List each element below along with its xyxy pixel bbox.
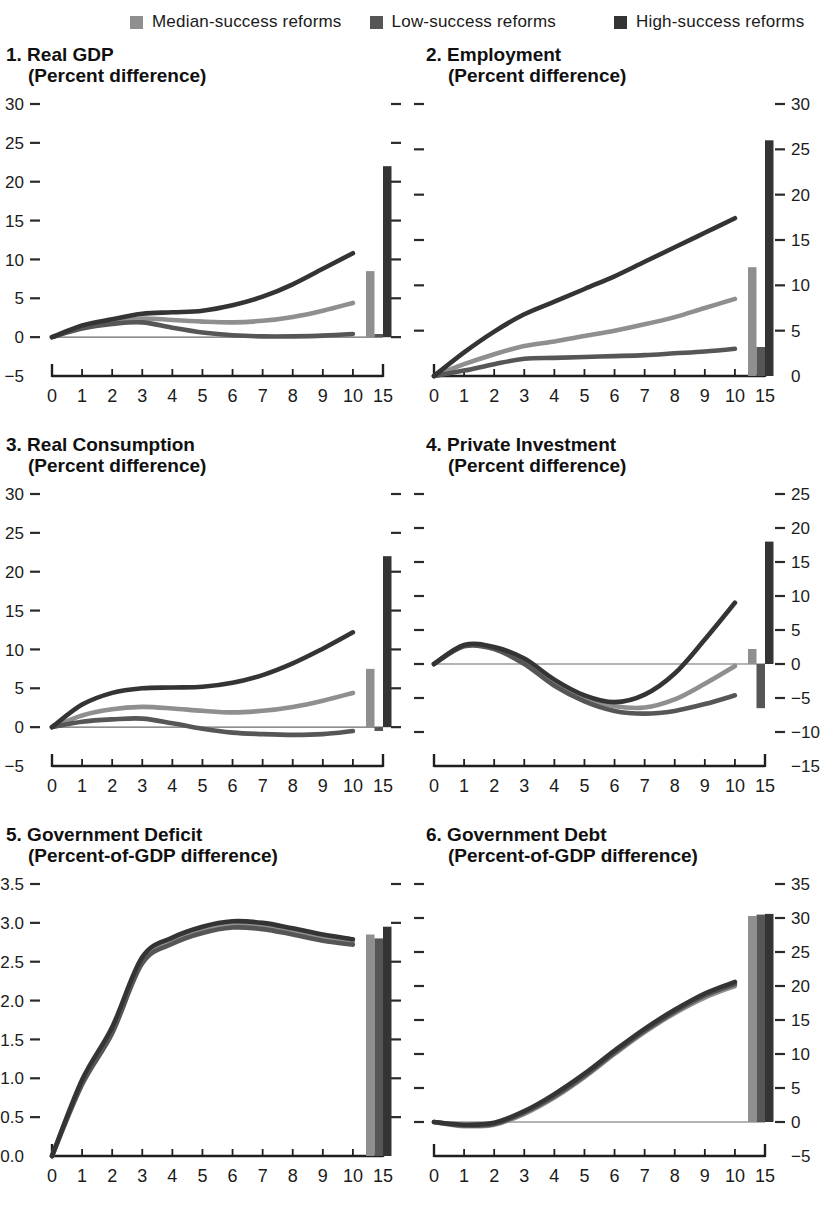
x-tick-label: 5 — [197, 776, 207, 796]
y-tick-label: 10 — [791, 276, 810, 295]
x-tick-label: 9 — [318, 1166, 328, 1186]
y-tick-label: 15 — [5, 602, 24, 621]
y-tick-label: 1.5 — [0, 1031, 24, 1050]
long-run-bars — [366, 166, 392, 337]
panel-title-text: 4. Private Investment — [426, 434, 820, 455]
y-tick-label: 10 — [5, 641, 24, 660]
x-tick-label: 0 — [47, 776, 57, 796]
line-High-success reforms — [434, 982, 735, 1125]
x-tick-label: 0 — [429, 1166, 439, 1186]
x-tick-label: 6 — [610, 1166, 620, 1186]
x-tick-label: 15 — [373, 776, 393, 796]
x-tick-label: 15 — [373, 1166, 393, 1186]
x-tick-label: 7 — [640, 776, 650, 796]
panel-title: 2. Employment (Percent difference) — [410, 44, 820, 86]
y-tick-label: 25 — [791, 485, 810, 504]
bar-Median-success reforms — [748, 649, 757, 664]
panel-subtitle-text: (Percent-of-GDP difference) — [426, 845, 820, 866]
legend-label: Median-success reforms — [152, 12, 342, 32]
y-tick-label: −5 — [791, 689, 810, 708]
x-axis: 01234567891015 — [429, 754, 775, 796]
x-tick-label: 6 — [610, 386, 620, 406]
y-tick-label: 30 — [791, 95, 810, 114]
x-tick-label: 2 — [107, 386, 117, 406]
bar-Low-success reforms — [375, 938, 384, 1156]
long-run-bars — [748, 542, 774, 709]
low-swatch-icon — [370, 16, 383, 29]
y-tick-label: 0 — [791, 367, 800, 386]
y-tick-label: 0 — [791, 1113, 800, 1132]
y-tick-label: 30 — [5, 95, 24, 114]
chart-private-investment: −15−10−5051015202501234567891015 — [410, 480, 820, 810]
panel-government-debt: 6. Government Debt (Percent-of-GDP diffe… — [410, 824, 820, 1212]
bar-High-success reforms — [765, 140, 774, 376]
y-tick-label: 30 — [5, 485, 24, 504]
line-Median-success reforms — [52, 924, 353, 1156]
line-Median-success reforms — [434, 986, 735, 1126]
x-tick-label: 15 — [755, 386, 775, 406]
bar-Median-success reforms — [748, 916, 757, 1122]
y-tick-label: 25 — [5, 524, 24, 543]
panel-employment: 2. Employment (Percent difference) 05101… — [410, 44, 820, 432]
x-tick-label: 1 — [77, 776, 87, 796]
x-tick-label: 7 — [640, 386, 650, 406]
x-tick-label: 6 — [228, 776, 238, 796]
x-tick-label: 8 — [288, 386, 298, 406]
x-tick-label: 15 — [373, 386, 393, 406]
x-tick-label: 4 — [549, 776, 559, 796]
x-tick-label: 8 — [670, 776, 680, 796]
bar-High-success reforms — [383, 556, 392, 727]
legend-item-low: Low-success reforms — [370, 12, 556, 32]
x-tick-label: 3 — [137, 386, 147, 406]
y-tick-label: 35 — [791, 875, 810, 894]
legend-item-high: High-success reforms — [614, 12, 804, 32]
y-tick-label: 3.5 — [0, 875, 24, 894]
x-tick-label: 10 — [343, 386, 363, 406]
panel-government-deficit: 5. Government Deficit (Percent-of-GDP di… — [0, 824, 410, 1212]
x-tick-label: 1 — [459, 386, 469, 406]
panel-grid: 1. Real GDP (Percent difference) −505101… — [0, 44, 820, 1212]
y-tick-label: 20 — [791, 186, 810, 205]
chart-government-deficit: 0.00.51.01.52.02.53.03.501234567891015 — [0, 870, 410, 1200]
chart-legend: Median-success reforms Low-success refor… — [0, 6, 820, 38]
bar-High-success reforms — [765, 542, 774, 664]
x-tick-label: 8 — [288, 776, 298, 796]
x-tick-label: 10 — [725, 386, 745, 406]
x-tick-label: 5 — [197, 1166, 207, 1186]
line-High-success reforms — [52, 921, 353, 1156]
y-tick-label: 2.5 — [0, 953, 24, 972]
long-run-bars — [748, 914, 774, 1122]
x-tick-label: 9 — [700, 1166, 710, 1186]
x-tick-label: 7 — [258, 386, 268, 406]
x-tick-label: 9 — [318, 386, 328, 406]
bar-High-success reforms — [383, 927, 392, 1156]
y-tick-label: 10 — [5, 251, 24, 270]
x-tick-label: 0 — [47, 386, 57, 406]
x-tick-label: 4 — [549, 386, 559, 406]
legend-item-median: Median-success reforms — [130, 12, 342, 32]
x-tick-label: 3 — [137, 776, 147, 796]
y-tick-label: 0.0 — [0, 1147, 24, 1166]
x-tick-label: 2 — [107, 776, 117, 796]
x-tick-label: 0 — [429, 386, 439, 406]
y-tick-label: 30 — [791, 909, 810, 928]
panel-svg: −50510152025303501234567891015 — [410, 870, 820, 1200]
y-tick-label: 0 — [791, 655, 800, 674]
x-tick-label: 0 — [47, 1166, 57, 1186]
panel-subtitle-text: (Percent difference) — [6, 455, 410, 476]
long-run-bars — [366, 927, 392, 1156]
panel-subtitle-text: (Percent-of-GDP difference) — [6, 845, 410, 866]
bar-Median-success reforms — [366, 935, 375, 1157]
x-tick-label: 10 — [725, 776, 745, 796]
x-axis: 01234567891015 — [429, 1144, 775, 1186]
bar-Median-success reforms — [748, 267, 757, 376]
x-axis: 01234567891015 — [47, 364, 393, 406]
panel-svg: −505101520253001234567891015 — [0, 90, 410, 420]
chart-government-debt: −50510152025303501234567891015 — [410, 870, 820, 1200]
panel-title-text: 6. Government Debt — [426, 824, 820, 845]
y-tick-label: 5 — [791, 621, 800, 640]
x-axis: 01234567891015 — [47, 1144, 393, 1186]
panel-title-text: 1. Real GDP — [6, 44, 410, 65]
x-tick-label: 2 — [489, 1166, 499, 1186]
x-axis: 01234567891015 — [47, 754, 393, 796]
